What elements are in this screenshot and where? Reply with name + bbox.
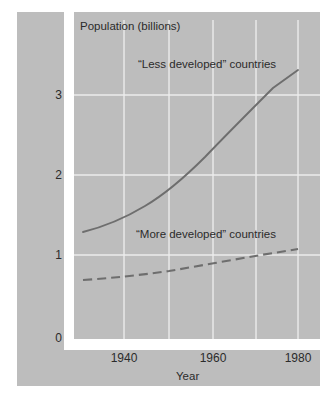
y-axis-spine [64,12,74,342]
x-axis-title: Year [176,370,199,382]
chart-title: Population (billions) [80,20,180,32]
y-tick-label-1: 1 [42,249,62,261]
x-axis-spine [64,339,320,350]
x-tick-label-1940: 1940 [102,352,146,364]
y-tick-label-0: 0 [42,332,62,344]
x-tick-label-1980: 1980 [276,352,320,364]
series-label-more-developed: “More developed” countries [136,228,276,240]
y-tick-label-2: 2 [42,169,62,181]
series-label-less-developed: “Less developed” countries [138,58,276,70]
population-chart-figure: 3 2 1 0 1940 1960 1980 Population (billi… [0,0,335,402]
x-tick-label-1960: 1960 [191,352,235,364]
curve-more-developed [83,249,298,280]
y-tick-label-3: 3 [42,89,62,101]
